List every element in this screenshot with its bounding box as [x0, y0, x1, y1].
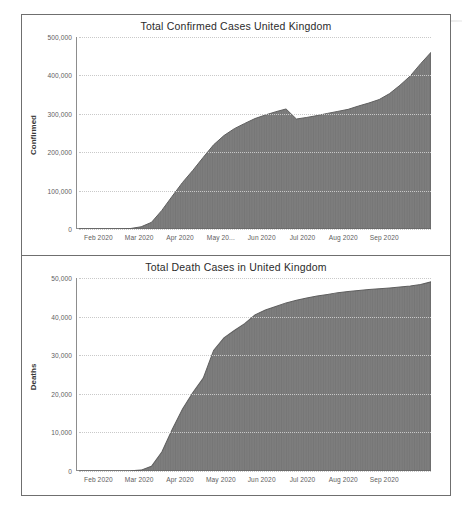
y-axis-tick-label: 20,000 — [51, 390, 72, 397]
gridline — [79, 432, 431, 433]
plot-wrapper-confirmed: 0100,000200,000300,000400,000500,000Feb … — [79, 37, 431, 229]
x-axis-tick-label: Sep 2020 — [370, 234, 399, 241]
y-axis-tick-label: 0 — [68, 226, 72, 233]
y-axis-spine — [76, 278, 77, 471]
gridline — [79, 191, 431, 192]
x-axis-tick-label: Aug 2020 — [329, 234, 358, 241]
x-axis-tick-label: Mar 2020 — [125, 234, 154, 241]
x-axis-tick-label: Mar 2020 — [125, 476, 154, 483]
x-axis-tick-label: May 20... — [207, 234, 235, 241]
x-axis-tick-label: Jun 2020 — [248, 476, 276, 483]
gridline — [79, 229, 431, 230]
gridline — [79, 317, 431, 318]
x-axis-tick-label: Sep 2020 — [370, 476, 399, 483]
y-axis-tick-label: 50,000 — [51, 275, 72, 282]
gridline — [79, 471, 431, 472]
gridline — [79, 152, 431, 153]
gridline — [79, 114, 431, 115]
chart-title-deaths: Total Death Cases in United Kingdom — [22, 261, 450, 273]
y-axis-spine — [76, 37, 77, 229]
chart-title-confirmed: Total Confirmed Cases United Kingdom — [22, 20, 450, 32]
y-axis-tick-label: 100,000 — [47, 187, 72, 194]
figure-frame: Total Confirmed Cases United Kingdom Con… — [21, 14, 451, 496]
y-axis-tick-label: 40,000 — [51, 313, 72, 320]
x-axis-tick-label: Apr 2020 — [166, 476, 194, 483]
x-axis-tick-label: Jun 2020 — [248, 234, 276, 241]
x-axis-tick-label: Feb 2020 — [84, 476, 113, 483]
x-axis-tick-label: Jul 2020 — [290, 234, 316, 241]
y-axis-label-confirmed: Confirmed — [29, 115, 38, 155]
chart-panel-deaths: Total Death Cases in United Kingdom Deat… — [22, 256, 450, 497]
gridline — [79, 75, 431, 76]
plot-area-confirmed: 0100,000200,000300,000400,000500,000Feb … — [79, 37, 431, 229]
area-series-deaths — [79, 278, 431, 471]
plot-wrapper-deaths: 010,00020,00030,00040,00050,000Feb 2020M… — [79, 278, 431, 471]
y-axis-tick-label: 500,000 — [47, 34, 72, 41]
y-axis-tick-label: 0 — [68, 468, 72, 475]
gridline — [79, 355, 431, 356]
gridline — [79, 278, 431, 279]
x-axis-tick-label: Feb 2020 — [84, 234, 113, 241]
y-axis-tick-label: 30,000 — [51, 352, 72, 359]
y-axis-tick-label: 10,000 — [51, 429, 72, 436]
x-axis-tick-label: Apr 2020 — [166, 234, 194, 241]
plot-area-deaths: 010,00020,00030,00040,00050,000Feb 2020M… — [79, 278, 431, 471]
y-axis-tick-label: 400,000 — [47, 72, 72, 79]
gridline — [79, 394, 431, 395]
x-axis-tick-label: Jul 2020 — [290, 476, 316, 483]
y-axis-tick-label: 300,000 — [47, 110, 72, 117]
gridline — [79, 37, 431, 38]
y-axis-label-deaths: Deaths — [29, 363, 38, 390]
y-axis-tick-label: 200,000 — [47, 149, 72, 156]
chart-panel-confirmed: Total Confirmed Cases United Kingdom Con… — [22, 15, 450, 256]
x-axis-tick-label: May 2020 — [206, 476, 236, 483]
area-series-confirmed — [79, 37, 431, 229]
x-axis-tick-label: Aug 2020 — [329, 476, 358, 483]
